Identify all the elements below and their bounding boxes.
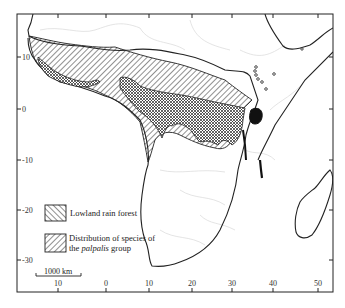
lon-label: 40 xyxy=(269,279,277,288)
lon-label: 20 xyxy=(188,279,196,288)
lon-label: 10 xyxy=(145,279,153,288)
scale-bar: 1000 km xyxy=(36,267,81,276)
lake-malawi xyxy=(260,160,262,178)
horn-coastline xyxy=(265,14,333,49)
madagascar xyxy=(295,170,332,238)
map-content xyxy=(28,14,333,266)
legend-swatch-rainforest xyxy=(45,205,66,221)
legend-label-palpalis-line2: the palpalis group xyxy=(69,243,131,253)
africa-distribution-map: 10 0 -10 -20 -30 10 0 10 20 30 40 50 Low… xyxy=(0,0,345,308)
lon-label: 0 xyxy=(104,279,108,288)
lat-label: -10 xyxy=(22,156,33,165)
lat-label: -20 xyxy=(22,206,33,215)
lat-label: 0 xyxy=(22,105,26,114)
lat-label: -30 xyxy=(22,256,33,265)
legend-label-rainforest: Lowland rain forest xyxy=(70,208,138,218)
lon-label: 50 xyxy=(314,279,322,288)
legend-label-palpalis-line1: Distribution of species of xyxy=(69,233,155,243)
lake-victoria-area xyxy=(250,108,263,124)
lon-label: 30 xyxy=(228,279,236,288)
palpalis-isolated-points xyxy=(254,48,303,90)
lon-label: 10 xyxy=(54,279,62,288)
lat-label: 10 xyxy=(22,53,30,62)
legend-swatch-palpalis xyxy=(45,234,66,252)
scale-bar-label: 1000 km xyxy=(44,267,73,276)
lake-tanganyika xyxy=(243,130,246,160)
legend: Lowland rain forest Distribution of spec… xyxy=(45,205,155,253)
